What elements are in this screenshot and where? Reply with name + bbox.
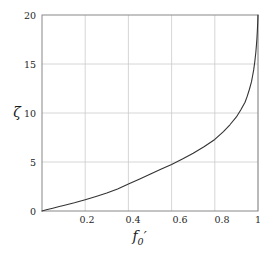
figure-canvas: 20 15 10 5 0 0.2 0.4 0.6 0.8 1 ζ f0′	[0, 0, 279, 256]
x-tick-label-0.8: 0.8	[208, 215, 236, 225]
x-tick-label-0.4: 0.4	[119, 215, 147, 225]
x-axis-title: f0′	[0, 229, 279, 246]
x-tick-label-1: 1	[244, 215, 272, 225]
y-tick-label-20: 20	[18, 11, 36, 21]
y-axis-title-text: ζ	[13, 104, 21, 120]
x-tick-label-0.6: 0.6	[166, 215, 194, 225]
x-axis-title-prime: ′	[144, 229, 147, 244]
x-tick-label-0.2: 0.2	[73, 215, 101, 225]
y-tick-label-0: 0	[18, 207, 36, 217]
y-axis-title: ζ	[8, 105, 26, 119]
y-tick-label-15: 15	[18, 60, 36, 70]
y-tick-label-5: 5	[18, 158, 36, 168]
horizontal-gridlines	[42, 64, 258, 162]
